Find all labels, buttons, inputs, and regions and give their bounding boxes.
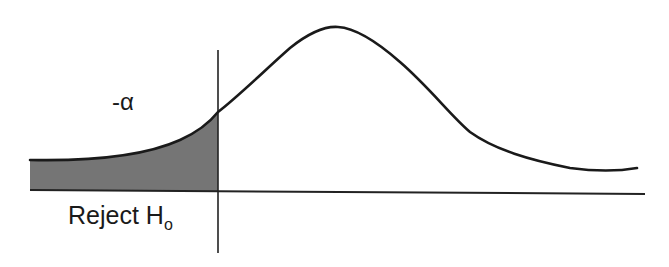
- reject-text: Reject H: [68, 201, 164, 229]
- x-axis: [30, 190, 645, 194]
- rejection-region-shading: [30, 112, 218, 191]
- reject-h0-label: Reject Ho: [68, 201, 173, 234]
- reject-subscript: o: [164, 216, 173, 233]
- alpha-label: -α: [112, 88, 134, 116]
